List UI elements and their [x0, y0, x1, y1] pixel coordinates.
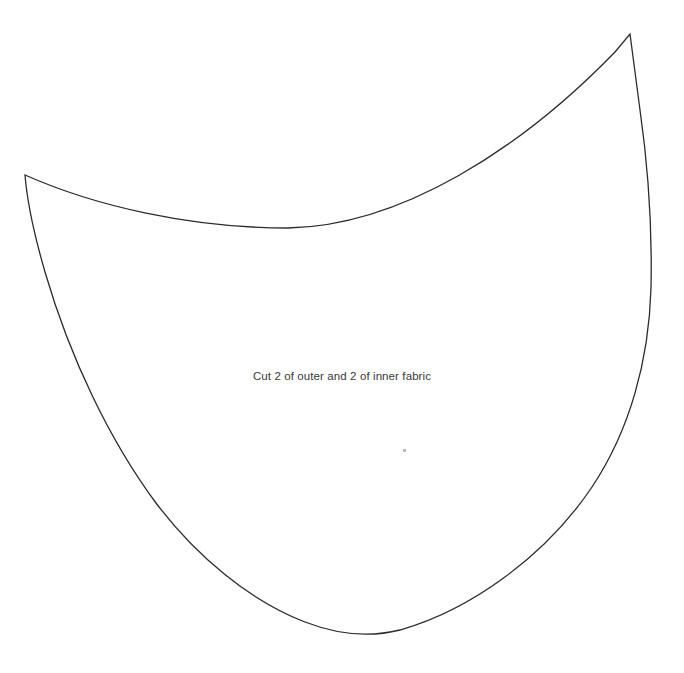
- pattern-canvas: [0, 0, 684, 673]
- pattern-page: Cut 2 of outer and 2 of inner fabric: [0, 0, 684, 673]
- stray-speck-mark: [403, 449, 406, 452]
- cut-instruction-label: Cut 2 of outer and 2 of inner fabric: [0, 369, 684, 383]
- mask-panel-outline-path: [25, 34, 651, 634]
